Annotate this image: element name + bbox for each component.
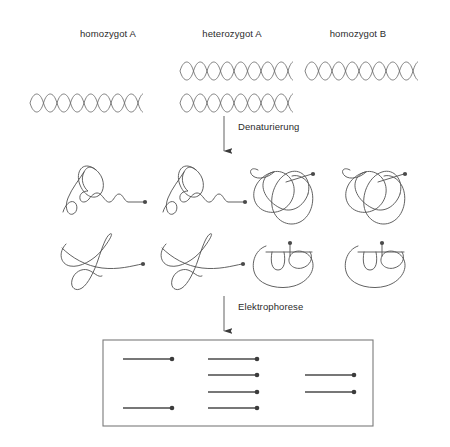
dna-helix-heterozygot-a-upper [180, 62, 293, 80]
conformation-a2-bottom [161, 234, 245, 290]
conformation-a2-top [163, 166, 247, 214]
figure-canvas: homozygot A heterozygot A homozygot B De… [0, 0, 450, 447]
conformation-b2-top [343, 169, 408, 224]
sscp-diagram-svg [0, 0, 450, 447]
conformation-row-top [63, 166, 407, 224]
conformation-a1-top [63, 166, 147, 214]
dna-helix-heterozygot-b-lower [180, 94, 293, 112]
conformation-b1-top [251, 169, 316, 224]
column-label-homozygot-b: homozygot B [330, 28, 387, 39]
gel-box [103, 340, 373, 426]
conformation-b2-bottom [345, 241, 405, 288]
dna-helix-group [30, 62, 418, 112]
conformation-a1-bottom [61, 234, 145, 290]
step-label-denaturierung: Denaturierung [238, 121, 300, 132]
dna-helix-homozygot-b-upper [305, 62, 418, 80]
step-label-elektrophorese: Elektrophorese [238, 301, 303, 312]
conformation-b1-bottom [253, 241, 313, 288]
dna-helix-homozygot-a-lower [30, 94, 143, 112]
conformation-row-bottom [61, 234, 405, 290]
column-label-heterozygot-a: heterozygot A [202, 28, 261, 39]
column-label-homozygot-a: homozygot A [80, 28, 136, 39]
